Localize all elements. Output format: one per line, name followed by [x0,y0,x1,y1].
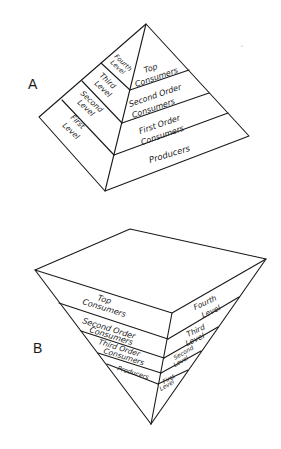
figure-b-label: B [33,340,42,356]
speck [241,45,242,46]
pyramid-b-right-edge [151,259,266,424]
pyramid-a-band-text: Producers [148,143,192,165]
pyramid-b: Top Consumers Second Order Consumers Thi… [33,229,266,424]
figure-a-label: A [28,76,38,92]
pyramid-a: Fourth Level Third Level Second Level Fi… [28,24,249,191]
pyramid-b-top-face [35,229,266,313]
ecological-pyramids-diagram: Fourth Level Third Level Second Level Fi… [0,0,281,449]
pyramid-b-band-text: Producers [116,364,150,381]
